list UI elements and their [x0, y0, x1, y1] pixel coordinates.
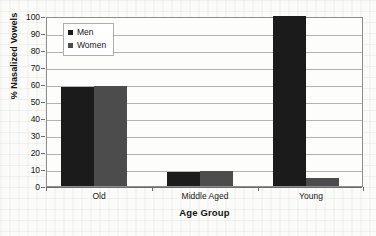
axis-baseline — [47, 187, 362, 188]
y-tick-label: 90 — [0, 30, 40, 39]
y-tick-mark — [41, 51, 45, 52]
y-tick-mark — [41, 34, 45, 35]
x-tick-mark — [258, 187, 259, 191]
square-marker-icon — [68, 43, 73, 48]
y-tick-label: 60 — [0, 81, 40, 90]
y-tick-mark — [41, 17, 45, 18]
y-tick-mark — [41, 153, 45, 154]
y-tick-mark — [41, 170, 45, 171]
x-tick-label-young: Young — [299, 192, 323, 201]
figure-root: % Nasalized Vowels 100 90 80 70 60 50 40… — [0, 0, 376, 236]
y-tick-mark — [41, 102, 45, 103]
x-tick-mark — [46, 187, 47, 191]
y-tick-label: 30 — [0, 132, 40, 141]
y-tick-label: 40 — [0, 115, 40, 124]
y-tick-label: 100 — [0, 13, 40, 22]
bar-women-young[interactable] — [306, 178, 339, 187]
square-marker-icon — [68, 30, 73, 35]
legend: Men Women — [63, 23, 114, 56]
legend-label: Women — [77, 41, 106, 50]
bar-men-young[interactable] — [273, 16, 306, 186]
y-tick-label: 0 — [0, 183, 40, 192]
y-tick-label: 20 — [0, 149, 40, 158]
bar-women-middle-aged[interactable] — [200, 171, 233, 186]
x-axis-tick-labels: Old Middle Aged Young — [46, 192, 363, 206]
legend-label: Men — [77, 28, 94, 37]
plot-area: Men Women — [46, 17, 363, 187]
y-tick-label: 80 — [0, 47, 40, 56]
y-axis-tick-labels: 100 90 80 70 60 50 40 30 20 10 0 — [0, 17, 40, 187]
y-tick-label: 10 — [0, 166, 40, 175]
x-tick-label-old: Old — [92, 192, 105, 201]
x-tick-mark — [152, 187, 153, 191]
x-axis-title: Age Group — [46, 207, 363, 218]
bar-men-middle-aged[interactable] — [167, 172, 200, 186]
y-tick-mark — [41, 85, 45, 86]
legend-item-women[interactable]: Women — [68, 40, 106, 51]
x-tick-label-middle-aged: Middle Aged — [182, 192, 229, 201]
y-tick-mark — [41, 68, 45, 69]
gridline — [47, 69, 362, 70]
legend-item-men[interactable]: Men — [68, 27, 106, 38]
x-tick-mark — [363, 187, 364, 191]
bar-men-old[interactable] — [61, 87, 94, 186]
y-tick-mark — [41, 136, 45, 137]
y-tick-mark — [41, 119, 45, 120]
bar-women-old[interactable] — [94, 86, 127, 186]
y-tick-label: 70 — [0, 64, 40, 73]
bar-chart: % Nasalized Vowels 100 90 80 70 60 50 40… — [0, 0, 376, 236]
y-tick-label: 50 — [0, 98, 40, 107]
y-tick-mark — [41, 187, 45, 188]
